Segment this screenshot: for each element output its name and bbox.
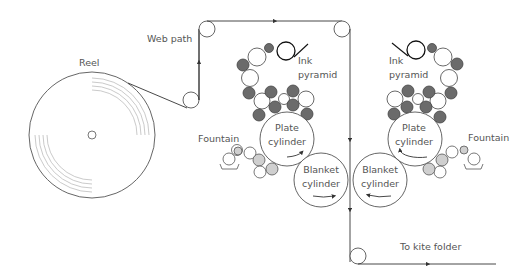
plate-cylinder-left-label-1: Plate xyxy=(257,122,317,134)
blanket-cylinder-right-label-2: cylinder xyxy=(350,178,410,190)
to-kite-folder-label: To kite folder xyxy=(400,241,461,253)
fountain-left-label: Fountain xyxy=(198,133,239,145)
plate-cylinder-right-label-2: cylinder xyxy=(384,136,444,148)
blanket-cylinder-left-label-1: Blanket xyxy=(291,164,351,176)
ink-pyramid-right-label-2: pyramid xyxy=(389,69,428,81)
plate-cylinder-left-label-2: cylinder xyxy=(257,136,317,148)
blanket-cylinder-right-label-1: Blanket xyxy=(350,164,410,176)
web-path-label: Web path xyxy=(147,33,192,45)
plate-cylinder-right-label-1: Plate xyxy=(384,122,444,134)
ink-pyramid-right-label-1: Ink xyxy=(389,55,403,67)
ink-pyramid-left-label-2: pyramid xyxy=(298,69,337,81)
fountain-right-label: Fountain xyxy=(468,132,509,144)
reel xyxy=(29,72,155,198)
ink-pyramid-left-label-1: Ink xyxy=(298,55,312,67)
right-ink-pyramid xyxy=(387,41,463,123)
reel-label: Reel xyxy=(79,57,100,69)
left-ink-pyramid xyxy=(237,42,314,121)
blanket-cylinder-left-label-2: cylinder xyxy=(291,178,351,190)
